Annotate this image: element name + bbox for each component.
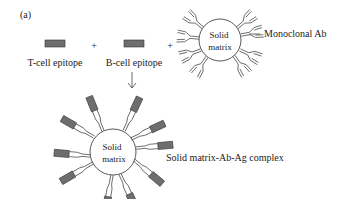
panel-label: (a) (20, 9, 31, 21)
arrow-down-icon (128, 72, 136, 88)
t-cell-epitope-label: T-cell epitope (28, 57, 83, 68)
solid-matrix-label-line2: matrix (208, 42, 232, 52)
t-cell-epitope-shape (45, 40, 65, 47)
solid-matrix-label-line1: Solid (209, 30, 229, 40)
b-cell-epitope-shape (124, 40, 144, 47)
b-cell-epitope: B-cell epitope (106, 40, 163, 68)
immunoassay-diagram: (a) T-cell epitope + B-cell epitope + So… (0, 0, 350, 199)
solid-matrix-ab-ag-complex: Solid matrix Solid matrix-Ab-Ag complex (54, 95, 284, 199)
monoclonal-ab-label: Monoclonal Ab (264, 28, 327, 39)
solid-matrix-circle (199, 19, 241, 61)
complex-matrix-circle (90, 129, 136, 175)
plus-sign-1: + (91, 40, 97, 51)
complex-label: Solid matrix-Ab-Ag complex (166, 152, 284, 163)
complex-matrix-label-line1: Solid (102, 142, 122, 152)
plus-sign-2: + (167, 40, 173, 51)
solid-matrix-with-antibodies: Solid matrix Monoclonal Ab (177, 9, 327, 78)
t-cell-epitope: T-cell epitope (28, 40, 83, 68)
complex-matrix-label-line2: matrix (102, 154, 126, 164)
b-cell-epitope-label: B-cell epitope (106, 57, 163, 68)
